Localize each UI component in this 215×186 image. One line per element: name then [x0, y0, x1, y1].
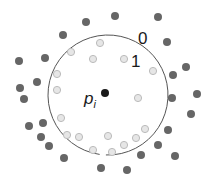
outer-dot	[164, 126, 172, 134]
inner-dot	[134, 94, 141, 101]
outer-dot	[154, 141, 162, 149]
inner-dot	[89, 55, 96, 62]
inner-dots-group	[53, 39, 156, 155]
inner-dot	[96, 39, 103, 46]
inner-dot	[53, 70, 60, 77]
inner-dot	[132, 134, 139, 141]
inner-dot	[108, 148, 115, 155]
outer-dot	[37, 133, 45, 141]
outer-dot	[15, 57, 23, 65]
outer-dot	[111, 12, 119, 20]
outer-dot	[163, 38, 171, 46]
outer-dot	[123, 166, 131, 174]
inner-dot	[104, 132, 111, 139]
inner-dot	[149, 67, 156, 74]
outer-dot	[60, 154, 68, 162]
inner-dot	[120, 141, 127, 148]
outer-dot	[25, 122, 33, 130]
outer-dot	[16, 84, 24, 92]
inner-dot	[63, 131, 70, 138]
outer-dot	[97, 164, 105, 172]
outer-dot	[193, 90, 201, 98]
outer-dot	[187, 110, 195, 118]
outer-dot	[20, 95, 28, 103]
outer-dot	[39, 119, 47, 127]
inner-dot	[67, 48, 74, 55]
inner-dot	[75, 133, 82, 140]
outer-dot	[82, 18, 90, 26]
outer-dot	[59, 31, 67, 39]
outer-ring-label: 0	[138, 29, 147, 48]
center-label: pi	[83, 89, 96, 110]
outer-dot	[171, 152, 179, 160]
outer-dot	[154, 13, 162, 21]
outer-dot	[45, 142, 53, 150]
inner-dot	[89, 146, 96, 153]
inner-dot	[120, 55, 127, 62]
outer-dot	[137, 151, 145, 159]
center-point-pi	[101, 89, 109, 97]
inner-ring-label: 1	[131, 52, 140, 71]
inner-dot	[141, 125, 148, 132]
outer-dot	[169, 71, 177, 79]
inner-dot	[53, 86, 60, 93]
outer-dot	[182, 63, 190, 71]
neighborhood-diagram: pi 0 1	[0, 0, 215, 186]
inner-dot	[57, 114, 64, 121]
outer-dot	[41, 54, 49, 62]
outer-dot	[33, 78, 41, 86]
outer-dot	[168, 94, 176, 102]
